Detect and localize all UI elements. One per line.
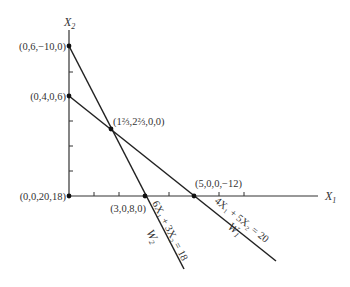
label-point-3-0: (3,0,8,0) <box>110 203 146 215</box>
point-origin <box>67 194 72 199</box>
label-point-0-4: (0,4,0,6) <box>30 91 66 103</box>
lp-diagram: X2 X1 (0,6,−10,0) (0,4,0,6) (1⅔,2⅔,0,0) … <box>0 0 350 287</box>
equation-w1: 4X₁ + 5X₂ = 20 <box>213 195 271 245</box>
line-name-w2: W2 <box>142 227 162 246</box>
point-3-0 <box>143 194 148 199</box>
point-5-0 <box>192 194 197 199</box>
label-point-5-0: (5,0,0,−12) <box>195 178 243 190</box>
point-intersection <box>109 127 114 132</box>
label-point-origin: (0,0,20,18) <box>20 191 67 203</box>
label-point-0-6: (0,6,−10,0) <box>19 41 67 53</box>
y-axis-label: X2 <box>63 15 75 31</box>
point-0-4 <box>67 94 72 99</box>
point-0-6 <box>67 44 72 49</box>
label-point-intersection: (1⅔,2⅔,0,0) <box>113 116 165 128</box>
x-axis-label: X1 <box>324 189 336 205</box>
